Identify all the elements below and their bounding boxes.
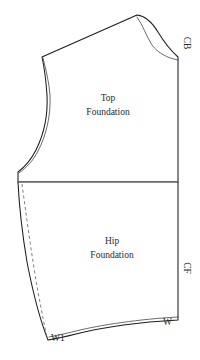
hip-foundation-label-line1: Hip: [105, 236, 120, 246]
top-foundation-label-line2: Foundation: [86, 107, 130, 117]
center-back-label: CB: [182, 37, 192, 50]
hip-foundation-label-line2: Foundation: [90, 250, 134, 260]
hip-foundation-outline: [18, 182, 178, 340]
waist-point-center-label: W: [163, 317, 172, 327]
pattern-diagram: Top Foundation Hip Foundation CB CF W1 W: [0, 0, 200, 360]
top-foundation-label-line1: Top: [101, 93, 116, 103]
pattern-canvas: Top Foundation Hip Foundation CB CF W1 W: [0, 0, 200, 360]
top-foundation-outline: [18, 15, 178, 182]
waist-point-side-label: W1: [51, 333, 65, 343]
center-front-label: CF: [182, 262, 192, 274]
